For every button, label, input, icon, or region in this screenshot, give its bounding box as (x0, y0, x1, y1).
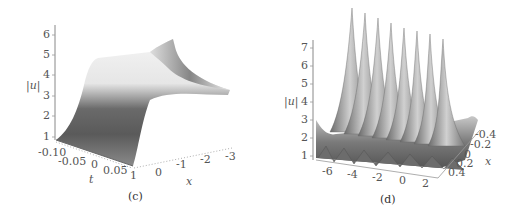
surface-plot-d (260, 0, 523, 214)
t-axis-label: t (89, 173, 93, 186)
x-tick: -3 (225, 150, 236, 163)
t-tick: -2 (372, 171, 383, 184)
z-axis-label: |u| (284, 95, 299, 108)
t-tick: -0.05 (58, 155, 86, 168)
x-tick: 0 (155, 166, 162, 179)
z-tick-2: 2 (43, 109, 50, 122)
z-tick-3: 3 (43, 89, 50, 102)
x-tick: 0.4 (448, 166, 466, 179)
peaks (330, 8, 465, 146)
chart-panel-d: 7 6 5 4 3 2 1 |u| -6 -4 -2 0 2 -0.4 -0.2… (260, 0, 523, 214)
z-tick-4: 4 (43, 68, 50, 81)
z-axis-label: |u| (26, 79, 41, 92)
t-tick: -4 (347, 168, 358, 181)
z-tick-5: 5 (301, 77, 308, 90)
z-tick-6: 6 (301, 59, 308, 72)
z-tick-3: 3 (301, 113, 308, 126)
x-tick: -0.2 (470, 138, 491, 151)
t-tick: -6 (322, 165, 333, 178)
t-tick: 1 (130, 169, 137, 182)
x-tick: -2 (200, 153, 211, 166)
x-tick: -1 (176, 158, 187, 171)
z-tick-4: 4 (301, 95, 308, 108)
panel-caption-d: (d) (380, 193, 396, 206)
z-tick-1: 1 (43, 130, 50, 143)
t-tick: 0.05 (103, 164, 128, 177)
z-tick-5: 5 (43, 48, 50, 61)
z-tick-2: 2 (301, 131, 308, 144)
z-tick-1: 1 (301, 149, 308, 162)
t-tick: 0 (399, 174, 406, 187)
x-axis-label: x (485, 155, 491, 168)
t-tick: 2 (422, 177, 429, 190)
z-tick-7: 7 (301, 41, 308, 54)
x-axis-label: x (186, 175, 192, 188)
panel-caption-c: (c) (128, 190, 143, 203)
chart-panel-c: 6 5 4 3 2 1 |u| -0.10 -0.05 0 0.05 1 t 0… (0, 0, 260, 214)
z-tick-6: 6 (43, 28, 50, 41)
t-tick: 0 (91, 158, 98, 171)
